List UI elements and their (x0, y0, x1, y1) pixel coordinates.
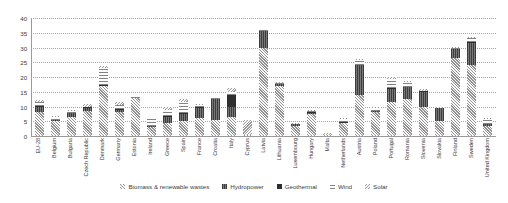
legend-item[interactable]: Hydropower (222, 183, 263, 190)
stacked-bar[interactable] (35, 100, 44, 136)
stacked-bar[interactable] (355, 59, 364, 136)
bar-segment (371, 112, 380, 136)
stacked-bar[interactable] (259, 30, 268, 136)
stacked-bar[interactable] (467, 37, 476, 136)
bar-slot[interactable] (352, 18, 368, 136)
x-tick-label: EU-28 (36, 138, 42, 154)
stacked-bar[interactable] (435, 107, 444, 136)
stacked-bar[interactable] (419, 89, 428, 136)
bar-slot[interactable] (400, 18, 416, 136)
x-label-slot: Finland (448, 138, 464, 180)
stacked-bar[interactable] (243, 120, 252, 136)
bar-slot[interactable] (432, 18, 448, 136)
stacked-bar[interactable] (275, 82, 284, 136)
bar-slot[interactable] (384, 18, 400, 136)
y-tick-label: 5 (24, 118, 27, 125)
bar-segment (419, 92, 428, 107)
bar-segment (355, 95, 364, 136)
x-label-slot: United Kingdom (480, 138, 496, 180)
stacked-bar[interactable] (291, 123, 300, 136)
bar-slot[interactable] (95, 18, 111, 136)
bar-slot[interactable] (63, 18, 79, 136)
bar-slot[interactable] (464, 18, 480, 136)
x-tick-label: Netherlands (341, 138, 347, 168)
bar-slot[interactable] (448, 18, 464, 136)
legend-item[interactable]: Geothermal (277, 183, 317, 190)
bar-slot[interactable] (47, 18, 63, 136)
bar-segment (179, 121, 188, 136)
stacked-bar[interactable] (83, 104, 92, 136)
x-axis-category-labels: EU-28BelgiumBulgariaCzech RepublicDenmar… (31, 138, 496, 180)
bar-series-group (31, 18, 496, 136)
bar-slot[interactable] (175, 18, 191, 136)
stacked-bar[interactable] (451, 47, 460, 136)
x-label-slot: Austria (352, 138, 368, 180)
bar-segment (227, 95, 236, 107)
legend-item[interactable]: Solar (365, 183, 387, 190)
x-tick-label: Romania (405, 138, 411, 160)
stacked-bar[interactable] (179, 99, 188, 136)
stacked-bar[interactable] (387, 77, 396, 136)
x-tick-label: Estonia (132, 138, 138, 156)
biomass-swatch (120, 184, 125, 189)
stacked-bar[interactable] (403, 81, 412, 136)
bar-segment (387, 102, 396, 136)
stacked-bar[interactable] (307, 110, 316, 136)
bar-slot[interactable] (111, 18, 127, 136)
x-tick-label: Sweden (469, 138, 475, 158)
stacked-bar[interactable] (163, 107, 172, 136)
stacked-bar[interactable] (483, 118, 492, 136)
bar-slot[interactable] (79, 18, 95, 136)
stacked-bar[interactable] (195, 104, 204, 136)
bar-slot[interactable] (336, 18, 352, 136)
x-label-slot: Cyprus (239, 138, 255, 180)
stacked-bar[interactable] (67, 110, 76, 136)
legend-label: Hydropower (230, 183, 263, 190)
chart-legend: Biomass & renewable wastesHydropowerGeot… (0, 183, 508, 190)
bar-segment (435, 121, 444, 136)
bar-slot[interactable] (416, 18, 432, 136)
x-label-slot: Luxembourg (288, 138, 304, 180)
legend-item[interactable]: Wind (330, 183, 352, 190)
bar-slot[interactable] (207, 18, 223, 136)
stacked-bar[interactable] (339, 118, 348, 136)
x-label-slot: Belgium (47, 138, 63, 180)
bar-slot[interactable] (239, 18, 255, 136)
bar-segment (211, 99, 220, 120)
x-label-slot: France (191, 138, 207, 180)
bar-segment (387, 89, 396, 102)
x-tick-label: Czech Republic (84, 138, 90, 177)
stacked-bar[interactable] (131, 97, 140, 136)
stacked-bar[interactable] (323, 133, 332, 136)
bar-segment (195, 118, 204, 136)
bar-slot[interactable] (288, 18, 304, 136)
x-tick-label: Greece (165, 138, 171, 156)
bar-slot[interactable] (271, 18, 287, 136)
bar-slot[interactable] (320, 18, 336, 136)
bar-slot[interactable] (223, 18, 239, 136)
bar-segment (227, 117, 236, 136)
bar-slot[interactable] (255, 18, 271, 136)
stacked-bar[interactable] (147, 119, 156, 136)
legend-item[interactable]: Biomass & renewable wastes (120, 183, 209, 190)
bar-segment (467, 43, 476, 65)
stacked-bar[interactable] (115, 102, 124, 136)
x-tick-label: Slovakia (437, 138, 443, 159)
x-label-slot: Poland (368, 138, 384, 180)
bar-segment (419, 107, 428, 137)
bar-slot[interactable] (159, 18, 175, 136)
bar-slot[interactable] (127, 18, 143, 136)
bar-slot[interactable] (304, 18, 320, 136)
stacked-bar[interactable] (99, 66, 108, 136)
bar-slot[interactable] (191, 18, 207, 136)
stacked-bar[interactable] (371, 107, 380, 136)
bar-slot[interactable] (368, 18, 384, 136)
stacked-bar[interactable] (211, 98, 220, 136)
x-label-slot: Netherlands (336, 138, 352, 180)
stacked-bar[interactable] (227, 88, 236, 136)
bar-slot[interactable] (143, 18, 159, 136)
bar-slot[interactable] (480, 18, 496, 136)
stacked-bar[interactable] (51, 116, 60, 136)
bar-segment (179, 114, 188, 121)
bar-slot[interactable] (31, 18, 47, 136)
